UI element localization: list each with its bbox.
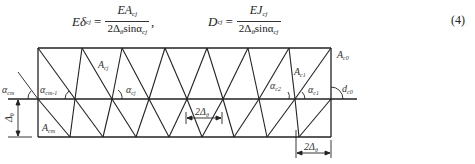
- arc-alpha-c1: [302, 92, 305, 99]
- arc-alpha-c2: [288, 92, 289, 99]
- label-alpha-c2: αc2: [270, 80, 281, 92]
- label-a-c0: Ac0: [336, 49, 349, 61]
- label-dim-right: 2Δθ: [304, 141, 318, 153]
- arc-alpha-cm1: [65, 91, 69, 99]
- lower-diagonals: [38, 99, 331, 137]
- frame: [8, 48, 357, 137]
- label-d-c0: dc0: [342, 83, 353, 95]
- label-alpha-cm1: αcm-1: [40, 84, 57, 96]
- label-alpha-cj: αcj: [126, 84, 136, 96]
- truss-diagram: Acj Acm Ac1 Ac0 αcm αcm-1 αcj αc2 αc1 dc…: [0, 0, 475, 164]
- label-delta-theta: Δθ: [3, 113, 15, 123]
- arc-alpha-cm: [28, 91, 31, 99]
- label-a-c1: Ac1: [293, 66, 306, 78]
- label-a-cm: Acm: [41, 122, 56, 134]
- label-alpha-c1: αc1: [308, 84, 319, 96]
- label-dim-mid: 2Δθ: [195, 106, 209, 118]
- upper-diagonals: [38, 48, 331, 99]
- label-alpha-cm: αcm: [2, 84, 15, 96]
- arc-alpha-cj: [118, 90, 122, 99]
- label-a-cj: Acj: [97, 59, 109, 71]
